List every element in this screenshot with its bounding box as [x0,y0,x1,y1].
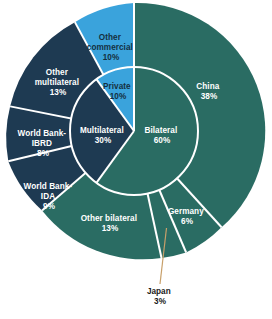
label-world-bank-ida-line2: IDA [41,192,55,201]
label-world-bank-ida-line1: World Bank- [24,182,73,191]
sunburst-chart: China 38% Germany 6% Other bilateral 13%… [0,0,272,319]
label-germany-line1: Germany [168,207,204,216]
label-world-bank-ida-line3: 9% [43,202,56,211]
label-world-bank-ibrd-line2: IBRD [32,139,52,148]
label-world-bank-ibrd-line1: World Bank- [18,129,67,138]
label-other-commercial-line1: Other [99,33,122,42]
sunburst-svg: China 38% Germany 6% Other bilateral 13%… [0,0,272,319]
label-world-bank-ibrd-line3: 8% [37,149,50,158]
label-multilateral-line2: 30% [95,136,112,145]
label-other-multilateral-line1: Other [46,68,69,77]
label-japan-line2: 3% [154,297,167,306]
label-other-bilateral-line1: Other bilateral [81,214,137,223]
label-bilateral-line1: Bilateral [144,126,177,135]
label-china-line1: China [196,82,219,91]
label-japan: Japan 3% [147,287,173,306]
label-other-bilateral-line2: 13% [102,224,119,233]
label-germany-line2: 6% [181,217,194,226]
label-japan-line1: Japan [147,287,171,296]
label-bilateral-line2: 60% [154,136,171,145]
label-multilateral-line1: Multilateral [80,126,124,135]
label-other-commercial-line2: commercial [87,43,133,52]
label-other-multilateral-line3: 13% [50,88,67,97]
label-private-line2: 10% [110,92,127,101]
label-other-commercial-line3: 10% [103,53,120,62]
label-private-line1: Private [103,82,131,91]
label-china-line2: 38% [201,92,218,101]
label-other-multilateral-line2: multilateral [35,78,79,87]
